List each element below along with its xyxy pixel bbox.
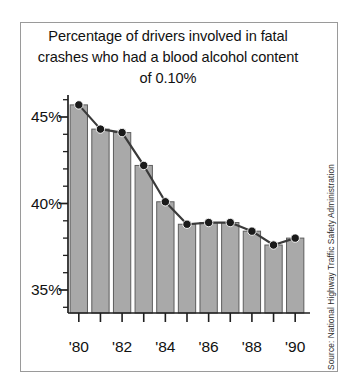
chart-title-line-2: crashes who had a blood alcohol content: [28, 47, 308, 68]
data-point-marker: [291, 234, 299, 242]
data-point-marker: [248, 227, 256, 235]
bar: [265, 245, 282, 313]
data-point-marker: [269, 241, 277, 249]
data-point-marker: [96, 125, 104, 133]
data-point-marker: [226, 218, 234, 226]
data-point-marker: [75, 101, 83, 109]
chart-title: Percentage of drivers involved in fatal …: [28, 26, 308, 89]
y-axis-tick-label: 35%: [31, 281, 62, 299]
data-point-marker: [118, 128, 126, 136]
chart-title-line-3: of 0.10%: [28, 68, 308, 89]
x-axis-tick-label: '82: [112, 338, 132, 356]
chart-plot-svg: [63, 95, 310, 317]
data-point-marker: [140, 161, 148, 169]
x-axis-tick-label: '84: [155, 338, 175, 356]
x-axis-tick-label: '86: [198, 338, 218, 356]
bar: [113, 133, 130, 313]
bar: [222, 223, 239, 313]
chart-title-line-1: Percentage of drivers involved in fatal: [28, 26, 308, 47]
bar: [243, 231, 260, 313]
data-point-marker: [161, 198, 169, 206]
bar: [135, 165, 152, 313]
plot-area: [63, 95, 310, 317]
bar: [92, 129, 109, 313]
y-axis-tick-label: 45%: [31, 108, 62, 126]
y-axis-tick-label: 40%: [31, 195, 62, 213]
bar: [287, 238, 304, 313]
x-axis-tick-label: '80: [69, 338, 89, 356]
x-axis-tick-label: '88: [242, 338, 262, 356]
source-note: Source: National Highway Traffic Safety …: [326, 150, 336, 370]
data-point-marker: [204, 218, 212, 226]
x-axis-tick-labels: '80'82'84'86'88'90: [63, 338, 313, 362]
bar: [157, 202, 174, 313]
bar: [70, 105, 87, 313]
x-axis-tick-label: '90: [285, 338, 305, 356]
bar: [178, 224, 195, 313]
chart-figure: Percentage of drivers involved in fatal …: [0, 0, 361, 390]
data-point-marker: [183, 220, 191, 228]
bar: [200, 223, 217, 313]
y-axis-tick-labels: 45%40%35%: [22, 95, 62, 317]
